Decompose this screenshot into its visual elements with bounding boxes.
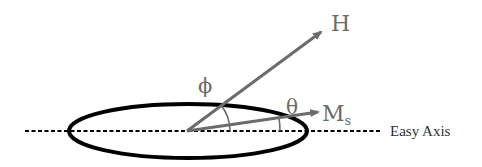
easy-axis-label: Easy Axis bbox=[390, 123, 451, 139]
magnetization-ms-main: M bbox=[322, 101, 345, 126]
diagram-canvas: H ϕ θ Ms Easy Axis bbox=[0, 0, 482, 167]
diagram-svg: H ϕ θ Ms Easy Axis bbox=[0, 0, 482, 167]
phi-label: ϕ bbox=[198, 74, 212, 98]
field-h-label: H bbox=[331, 11, 350, 36]
magnetization-ms-label: Ms bbox=[322, 101, 351, 128]
theta-label: θ bbox=[286, 95, 298, 119]
magnetization-ms-subscript: s bbox=[345, 113, 352, 128]
theta-angle-arc bbox=[279, 118, 280, 131]
